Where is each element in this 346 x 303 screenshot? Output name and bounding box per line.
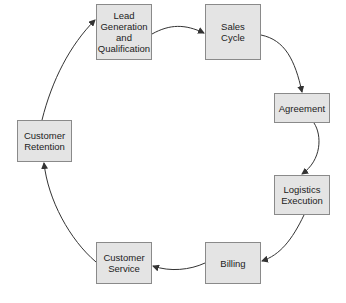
- edge-service-to-retention: [44, 163, 96, 262]
- node-label: Customer Retention: [24, 130, 65, 152]
- edge-agreement-to-logistics: [302, 123, 319, 174]
- node-label: Billing: [220, 258, 245, 269]
- node-label: Logistics Execution: [281, 184, 323, 206]
- node-logistics-execution: Logistics Execution: [274, 175, 330, 215]
- node-label: Lead Generation and Qualification: [98, 10, 150, 54]
- node-customer-service: Customer Service: [96, 242, 152, 284]
- node-label: Agreement: [279, 103, 325, 114]
- node-label: Sales Cycle: [221, 21, 245, 43]
- node-customer-retention: Customer Retention: [17, 120, 72, 162]
- edge-billing-to-service: [153, 263, 205, 270]
- edge-retention-to-lead: [42, 20, 95, 120]
- edge-lead-to-sales: [152, 26, 204, 34]
- node-label: Customer Service: [103, 252, 144, 274]
- node-lead-generation: Lead Generation and Qualification: [96, 4, 152, 60]
- node-agreement: Agreement: [274, 93, 330, 123]
- edge-logistics-to-billing: [262, 215, 304, 261]
- node-billing: Billing: [205, 242, 261, 284]
- edge-sales-to-agreement: [261, 35, 302, 92]
- node-sales-cycle: Sales Cycle: [205, 4, 261, 60]
